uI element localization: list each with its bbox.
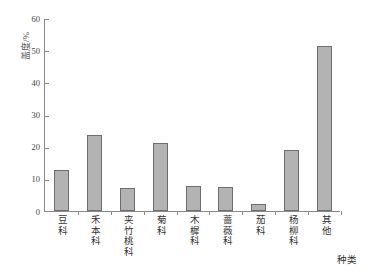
x-axis-category-label: 蔷薇科 (218, 215, 232, 247)
bar (284, 150, 299, 211)
bar-chart: 盖度/% 6050403020100 豆科禾本科夹竹桃科菊科木樨科蔷薇科茄科杨柳… (0, 0, 382, 276)
y-axis-tick-label: 10 (24, 175, 40, 184)
bar (120, 188, 135, 211)
x-axis-tick-mark (341, 211, 342, 215)
y-axis-tick-mark (45, 148, 49, 149)
x-axis-category-label: 豆科 (53, 215, 67, 236)
y-axis-tick-label: 0 (24, 208, 40, 217)
y-axis-tick-label: 60 (24, 15, 40, 24)
bar (218, 187, 233, 211)
x-axis-category-label: 菊科 (152, 215, 166, 236)
x-axis-category-label: 茄科 (251, 215, 265, 236)
y-axis-tick-mark (45, 180, 49, 181)
y-axis-tick-mark (45, 19, 49, 20)
x-axis-category-label: 夹竹桃科 (119, 215, 133, 257)
plot-area (44, 19, 340, 212)
y-axis-tick-mark (45, 116, 49, 117)
x-axis-category-labels: 豆科禾本科夹竹桃科菊科木樨科蔷薇科茄科杨柳科其他 (44, 215, 340, 273)
y-axis-tick-mark (45, 83, 49, 84)
bar (251, 204, 266, 211)
x-axis-category-label: 禾本科 (86, 215, 100, 247)
y-axis-tick-label: 20 (24, 143, 40, 152)
x-axis-category-label: 杨柳科 (284, 215, 298, 247)
y-axis-tick-label: 40 (24, 79, 40, 88)
bar (153, 143, 168, 211)
x-axis-category-label: 木樨科 (185, 215, 199, 247)
x-axis-category-label: 其他 (317, 215, 331, 236)
bar (54, 170, 69, 211)
x-axis-title: 种类 (337, 255, 357, 265)
y-axis-tick-label: 30 (24, 111, 40, 120)
y-axis-tick-labels: 6050403020100 (22, 0, 40, 276)
bar (317, 46, 332, 211)
y-axis-tick-label: 50 (24, 47, 40, 56)
y-axis-tick-mark (45, 51, 49, 52)
bar (186, 186, 201, 211)
bar (87, 135, 102, 211)
